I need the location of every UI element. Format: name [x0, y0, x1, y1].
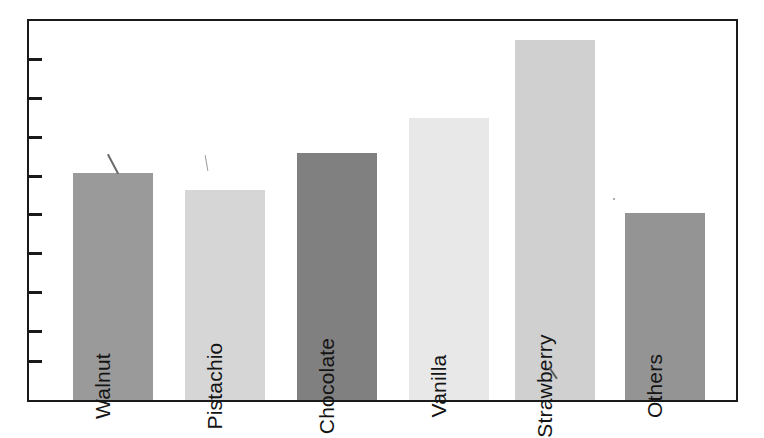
bar-chocolate[interactable]: Chocolate: [297, 153, 377, 400]
bar-others[interactable]: Others: [625, 213, 705, 400]
bar-label-pistachio: Pistachio: [204, 342, 225, 429]
bar-label-vanilla: Vanilla: [428, 355, 449, 418]
bar-label-strawberry: Strawberry: [534, 334, 555, 438]
bar-label-walnut: Walnut: [92, 353, 113, 419]
bar-vanilla[interactable]: Vanilla: [409, 118, 489, 400]
bar-pistachio[interactable]: Pistachio: [185, 190, 265, 400]
bar-label-others: Others: [644, 354, 665, 418]
bar-label-chocolate: Chocolate: [316, 338, 337, 434]
bar-strawberry[interactable]: Strawberry: [515, 40, 595, 400]
scan-artifact-4: [613, 198, 615, 200]
bars-container: WalnutPistachioChocolateVanillaStrawberr…: [29, 21, 736, 400]
bar-walnut[interactable]: Walnut: [73, 173, 153, 400]
